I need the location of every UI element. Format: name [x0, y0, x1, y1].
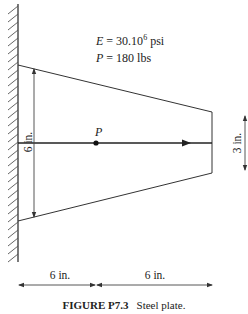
- load-arrow-icon: [182, 140, 191, 147]
- span-1-label: 6 in.: [50, 269, 71, 281]
- modulus-label: E = 30.106 psi: [95, 33, 165, 48]
- load-magnitude-label: P = 180 lbs: [95, 51, 151, 65]
- load-point-icon: [93, 140, 98, 145]
- figure-caption: FIGURE P7.3Steel plate.: [63, 299, 186, 311]
- steel-plate-diagram: P 6 in. 3 in. 6 in. 6 in. E = 30.106 psi…: [0, 0, 248, 314]
- load-label: P: [94, 125, 103, 139]
- fixed-wall: [8, 4, 18, 262]
- modulus-value: = 30.10: [103, 34, 143, 48]
- load-value: = 180 lbs: [103, 51, 151, 65]
- right-height-label: 3 in.: [231, 133, 243, 154]
- figure-title: Steel plate.: [137, 299, 186, 311]
- left-height-label: 6 in.: [22, 132, 34, 153]
- modulus-unit: psi: [147, 34, 165, 48]
- load-axis: [18, 140, 212, 147]
- figure-number: FIGURE P7.3: [63, 299, 130, 311]
- span-2-label: 6 in.: [145, 269, 166, 281]
